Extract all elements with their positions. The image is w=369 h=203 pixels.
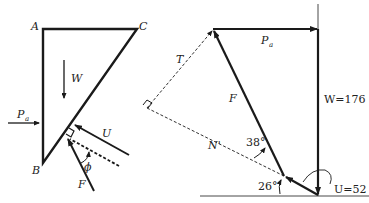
normal-dashed-line xyxy=(70,139,119,166)
polygon-weight-label: W=176 xyxy=(324,93,366,106)
weight-label: W xyxy=(71,72,84,85)
angle-26-label: 26° xyxy=(258,180,278,193)
shear-dashed xyxy=(147,31,212,108)
wedge-abc xyxy=(43,29,137,163)
wedge-outline xyxy=(43,29,137,163)
vertex-b-label: B xyxy=(31,164,40,177)
vertex-c-label: C xyxy=(139,20,148,33)
polygon-active-thrust-label: P xyxy=(260,34,269,47)
active-thrust-label: P xyxy=(16,108,25,121)
polygon-active-thrust-sub: a xyxy=(269,41,273,49)
polygon-reaction xyxy=(214,31,284,176)
polygon-reaction-label: F xyxy=(228,92,237,105)
polygon-pore-force xyxy=(286,177,318,195)
pore-force-label: U xyxy=(102,127,112,140)
vertex-a-label: A xyxy=(30,20,39,33)
angle-26-arc xyxy=(279,180,281,194)
active-thrust-sub: a xyxy=(25,115,29,123)
force-diagram: A C B W P a U F ϕ P a W=176 U=52 F T N' … xyxy=(0,0,369,203)
reaction-label: F xyxy=(77,178,86,191)
friction-angle-label: ϕ xyxy=(84,161,92,174)
normal-label: N' xyxy=(207,139,221,152)
angle-38-label: 38° xyxy=(246,136,266,149)
angle-38-arc xyxy=(254,148,265,158)
polygon-pore-force-label: U=52 xyxy=(334,183,366,196)
